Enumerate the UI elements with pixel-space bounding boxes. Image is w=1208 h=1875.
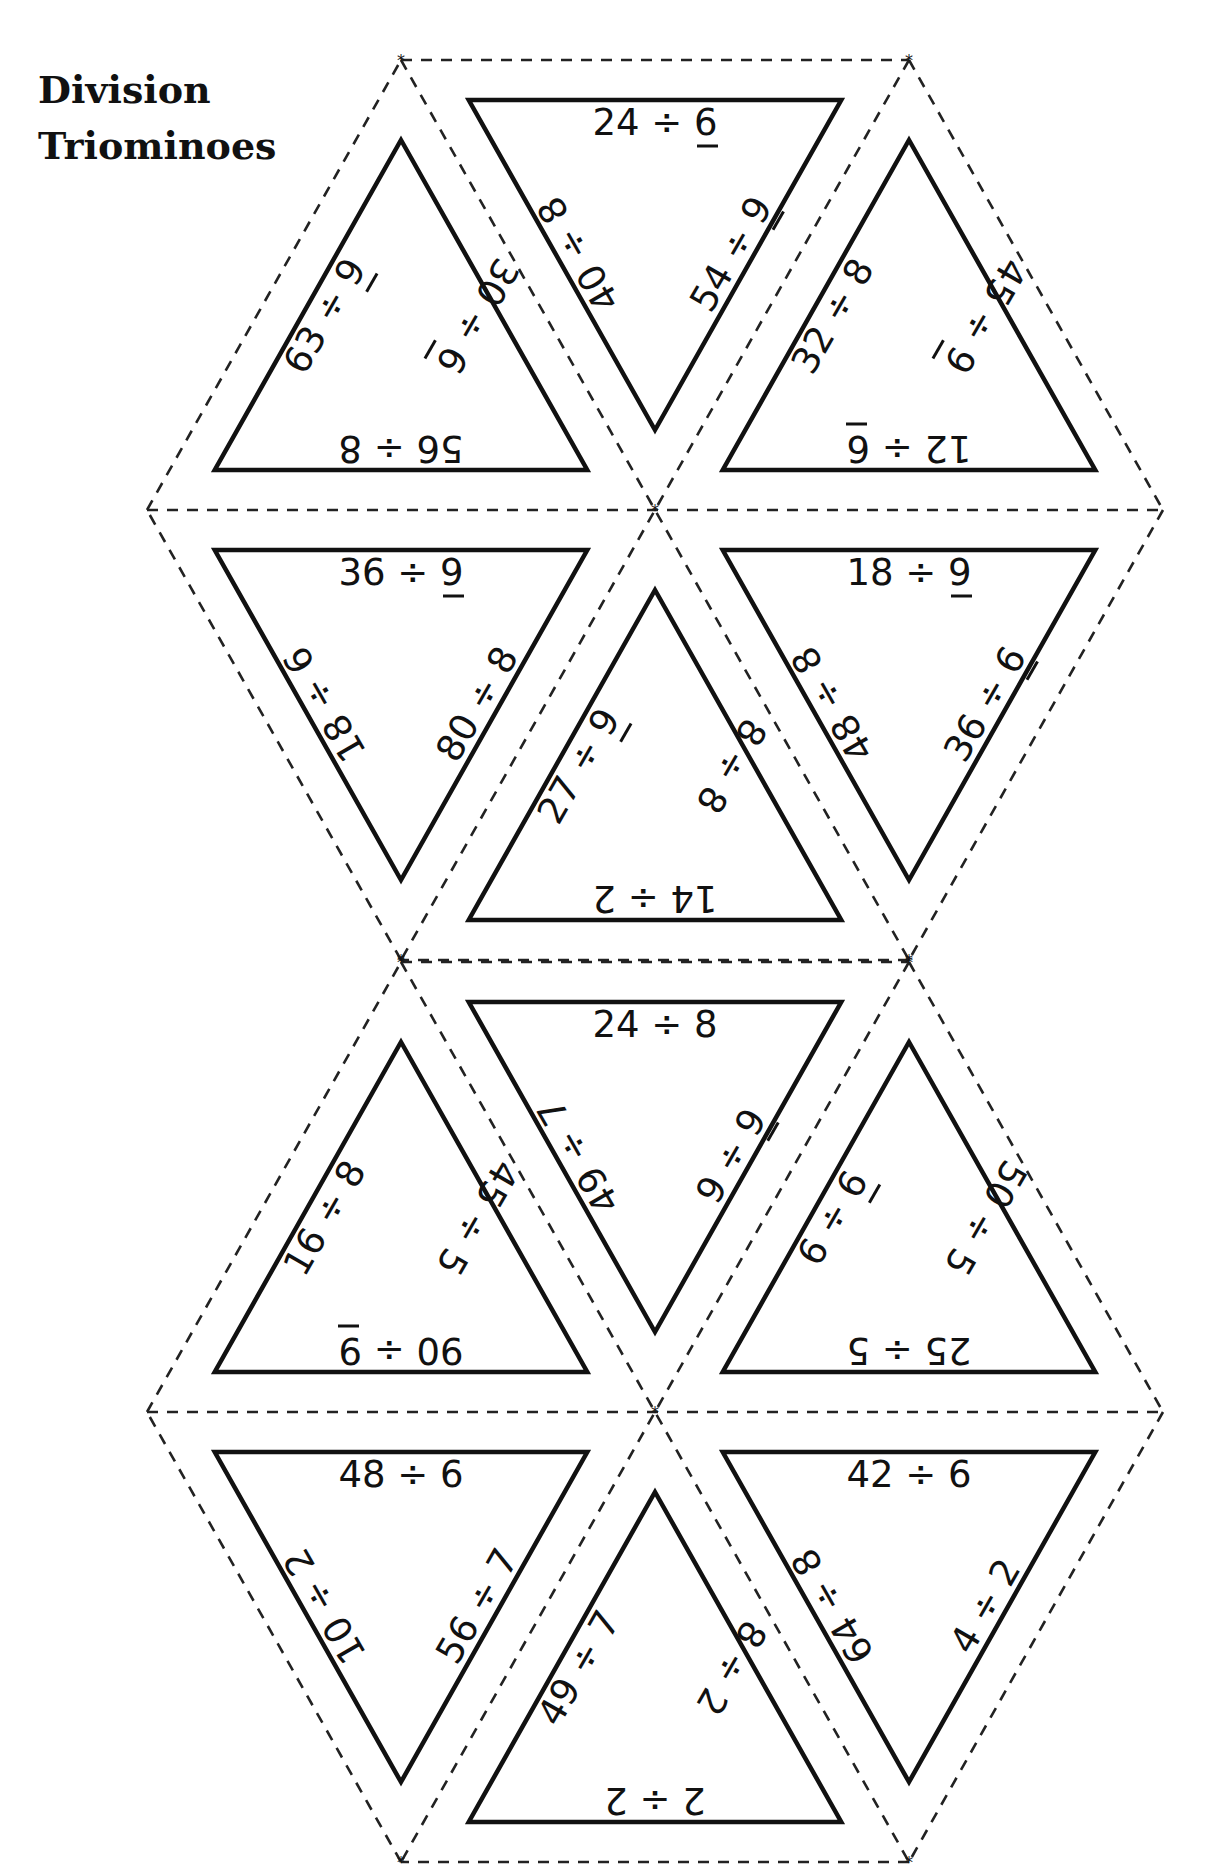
edge-label-top: 36 ÷ 9 [338,551,463,594]
cut-marker-icon: * [397,1853,405,1872]
edge-label-bottom: 2 ÷ 2 [604,1779,706,1822]
cut-marker-icon: * [905,1853,913,1872]
cut-marker-icon: * [397,51,405,70]
cut-marker-icon: * [905,953,913,972]
edge-label-top: 24 ÷ 8 [592,1003,717,1046]
edge-label-bottom: 25 ÷ 5 [846,1329,971,1372]
edge-label-top: 42 ÷ 6 [846,1453,971,1496]
edge-label-top: 24 ÷ 6 [592,101,717,144]
cut-marker-icon: * [651,501,659,520]
cut-marker-icon: * [905,51,913,70]
edge-label-bottom: 90 ÷ 9 [338,1329,463,1372]
cut-marker-icon: * [397,953,405,972]
triominoes-board: 56 ÷ 863 ÷ 930 ÷ 624 ÷ 640 ÷ 854 ÷ 912 ÷… [0,0,1208,1875]
edge-label-top: 48 ÷ 6 [338,1453,463,1496]
cut-marker-icon: * [651,1403,659,1422]
hexagon-2: 90 ÷ 916 ÷ 845 ÷ 524 ÷ 849 ÷ 79 ÷ 925 ÷ … [147,953,1163,1872]
edge-label-bottom: 56 ÷ 8 [338,427,463,470]
hexagon-1: 56 ÷ 863 ÷ 930 ÷ 624 ÷ 640 ÷ 854 ÷ 912 ÷… [147,51,1163,970]
edge-label-top: 18 ÷ 9 [846,551,971,594]
edge-label-bottom: 14 ÷ 2 [592,877,717,920]
edge-label-bottom: 12 ÷ 6 [846,427,971,470]
